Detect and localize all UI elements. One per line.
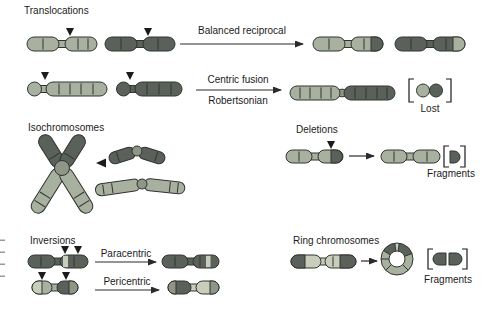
right-bracket-icon (460, 146, 465, 167)
chromosome-pericentric-inverted (168, 281, 219, 294)
chromosome-ring-original (291, 255, 356, 268)
chromosome-acrocentric-light (28, 82, 108, 96)
chromosome-dark-original (105, 37, 175, 51)
pericentric-label: Pericentric (103, 276, 150, 287)
chromosome-translocated-dark (395, 37, 465, 51)
left-bracket-icon (409, 79, 414, 102)
chromosome-with-deletion-site (286, 150, 343, 163)
centric-fusion-label: Centric fusion (207, 74, 268, 85)
deletions-section: Deletions Fragments (286, 124, 475, 179)
chromosome-translocated-light (313, 37, 383, 51)
chromosome-paracentric-original (28, 255, 88, 268)
chromosome-deleted (381, 150, 440, 163)
breakpoint-marker-icon (66, 28, 74, 36)
inversions-section: Inversions Paracentric (28, 235, 219, 294)
chromosome-x-shaped (29, 132, 96, 216)
translocations-section: Translocations Balanced reciprocal (24, 5, 465, 114)
left-bracket-icon (444, 146, 449, 167)
lost-label: Lost (421, 103, 440, 114)
breakpoint-marker-icon (74, 246, 82, 254)
chromosome-abnormalities-diagram: Translocations Balanced reciprocal (0, 0, 486, 310)
chromosome-pericentric-original (32, 281, 78, 294)
breakpoint-marker-icon (61, 246, 69, 254)
breakpoint-marker-icon (144, 28, 152, 36)
chromosome-paracentric-inverted (162, 255, 219, 268)
right-bracket-icon (462, 249, 467, 269)
centromere-marker-icon (96, 159, 106, 168)
inversions-title: Inversions (30, 235, 76, 246)
chromosome-fused (290, 86, 395, 100)
left-bracket-icon (428, 249, 433, 269)
chromosome-chevron-dark (108, 146, 167, 165)
ring-chromosome (381, 243, 413, 275)
isochromosomes-title: Isochromosomes (28, 122, 104, 133)
breakpoint-marker-icon (126, 72, 134, 80)
centromere (55, 161, 70, 176)
robertsonian-label: Robertsonian (208, 95, 267, 106)
right-bracket-icon (446, 79, 451, 102)
fragments-label: Fragments (427, 168, 475, 179)
ring-chromosomes-title: Ring chromosomes (293, 235, 379, 246)
ring-chromosomes-section: Ring chromosomes (291, 235, 472, 285)
breakpoint-marker-icon (41, 72, 49, 80)
balanced-reciprocal-label: Balanced reciprocal (198, 25, 286, 36)
chromosome-arc-light (95, 178, 186, 196)
chromosome-light-original (27, 37, 97, 51)
isochromosomes-section: Isochromosomes (28, 122, 185, 216)
left-margin-artifacts (0, 240, 5, 278)
breakpoint-marker-icon (327, 141, 335, 149)
breakpoint-marker-icon (62, 272, 70, 280)
translocations-title: Translocations (24, 5, 89, 16)
centromere (137, 179, 147, 189)
deletions-title: Deletions (296, 124, 338, 135)
centromere (132, 146, 142, 156)
ring-fragments: Fragments (424, 249, 472, 285)
lost-fragments: Lost (409, 79, 451, 114)
fragments-label: Fragments (424, 274, 472, 285)
chromosome-acrocentric-dark (117, 82, 183, 96)
paracentric-label: Paracentric (101, 248, 152, 259)
breakpoint-marker-icon (38, 272, 46, 280)
